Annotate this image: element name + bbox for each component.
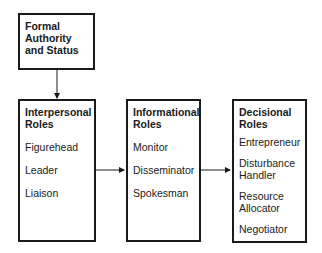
role-figurehead: Figurehead: [25, 141, 89, 153]
interpersonal-roles-box: Interpersonal Roles Figurehead Leader Li…: [18, 99, 96, 242]
role-monitor: Monitor: [133, 141, 194, 153]
role-leader: Leader: [25, 164, 89, 176]
role-negotiator: Negotiator: [239, 223, 300, 235]
role-spokesman: Spokesman: [133, 187, 194, 199]
decisional-roles-title: Decisional Roles: [239, 106, 300, 130]
informational-roles-title: Informational Roles: [133, 106, 194, 130]
role-entrepreneur: Entrepreneur: [239, 136, 300, 148]
role-disseminator: Disseminator: [133, 164, 194, 176]
role-liaison: Liaison: [25, 187, 89, 199]
formal-authority-title: Formal Authority and Status: [25, 20, 88, 56]
role-resource-allocator: Resource Allocator: [239, 190, 300, 214]
informational-roles-box: Informational Roles Monitor Disseminator…: [126, 99, 201, 242]
interpersonal-roles-title: Interpersonal Roles: [25, 106, 89, 130]
decisional-roles-box: Decisional Roles Entrepreneur Disturbanc…: [232, 99, 307, 243]
formal-authority-box: Formal Authority and Status: [18, 13, 95, 70]
role-disturbance-handler: Disturbance Handler: [239, 157, 300, 181]
